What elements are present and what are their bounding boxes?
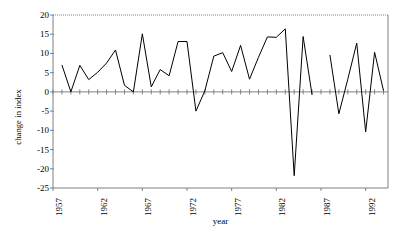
axis-ticks bbox=[50, 15, 384, 191]
plot-area bbox=[0, 0, 402, 233]
chart-figure: change in index 20151050-5-10-15-20-25 1… bbox=[0, 0, 402, 233]
series-line-1 bbox=[330, 43, 384, 132]
series-line-0 bbox=[62, 29, 312, 176]
plot-frame bbox=[53, 15, 388, 188]
data-series bbox=[62, 29, 384, 176]
